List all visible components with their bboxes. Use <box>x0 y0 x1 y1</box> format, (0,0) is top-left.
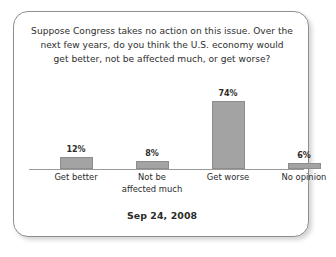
question-title-line-1: Suppose Congress takes no action on this… <box>24 24 300 38</box>
bar-group-not-be-affected-much: 8% <box>121 149 183 169</box>
x-axis-label-not-be-affected-much: Not be affected much <box>110 172 194 195</box>
bar-value-label: 8% <box>121 149 183 159</box>
chart-baseline-axis <box>29 169 304 170</box>
bar-value-label: 6% <box>273 151 335 161</box>
poll-result-card: Suppose Congress takes no action on this… <box>13 11 309 237</box>
bar-value-label: 12% <box>45 145 107 155</box>
x-axis-label-get-better: Get better <box>34 172 118 184</box>
bar-no-opinion <box>288 163 321 169</box>
bar-not-be-affected-much <box>136 161 169 169</box>
page-root: Suppose Congress takes no action on this… <box>0 0 336 257</box>
question-title: Suppose Congress takes no action on this… <box>24 24 300 67</box>
x-axis-label-no-opinion: No opinion <box>262 172 336 184</box>
bar-group-get-better: 12% <box>45 145 107 169</box>
x-axis-labels: Get better Not be affected much Get wors… <box>14 172 310 206</box>
bar-get-worse <box>212 101 245 169</box>
question-title-line-2: next few years, do you think the U.S. ec… <box>24 38 300 52</box>
question-title-line-3: get better, not be affected much, or get… <box>24 52 300 66</box>
bar-group-get-worse: 74% <box>197 89 259 169</box>
bar-value-label: 74% <box>197 89 259 99</box>
bar-get-better <box>60 157 93 169</box>
bar-group-no-opinion: 6% <box>273 151 335 169</box>
x-axis-label-get-worse: Get worse <box>186 172 270 184</box>
poll-date-caption: Sep 24, 2008 <box>14 210 310 221</box>
